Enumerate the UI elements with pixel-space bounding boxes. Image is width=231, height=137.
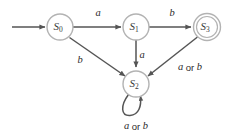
transition-label-s0-s1: a [95,7,100,18]
transition-s2-self-loop [123,95,141,116]
transition-label-s0-s2: b [77,54,82,65]
transition-label-s2-self: a or b [124,120,148,131]
transition-label-s1-s3: b [169,7,174,18]
state-label-s1-sub: 1 [135,25,139,34]
transition-label-s3-s2-part-or: or [183,62,197,73]
transition-label-s3-s2: a or b [178,61,202,72]
transition-label-s3-s2-part-b: b [197,61,202,72]
transition-label-s1-s2: a [139,49,144,60]
fsm-canvas: a b b a a or b a or b S0 [0,0,231,137]
state-label-s0-sub: 0 [59,25,63,34]
state-node-s3[interactable]: S3 [194,14,221,41]
transition-label-s2-self-part-or: or [129,121,143,132]
state-node-s2[interactable]: S2 [123,71,149,97]
state-node-s0[interactable]: S0 [47,14,73,40]
transition-label-s2-self-part-b: b [143,120,148,131]
state-label-s3-sub: 3 [206,25,210,34]
state-node-s1[interactable]: S1 [123,14,149,40]
fsm-diagram: a b b a a or b a or b S0 [0,0,231,137]
state-label-s2-sub: 2 [135,82,139,91]
